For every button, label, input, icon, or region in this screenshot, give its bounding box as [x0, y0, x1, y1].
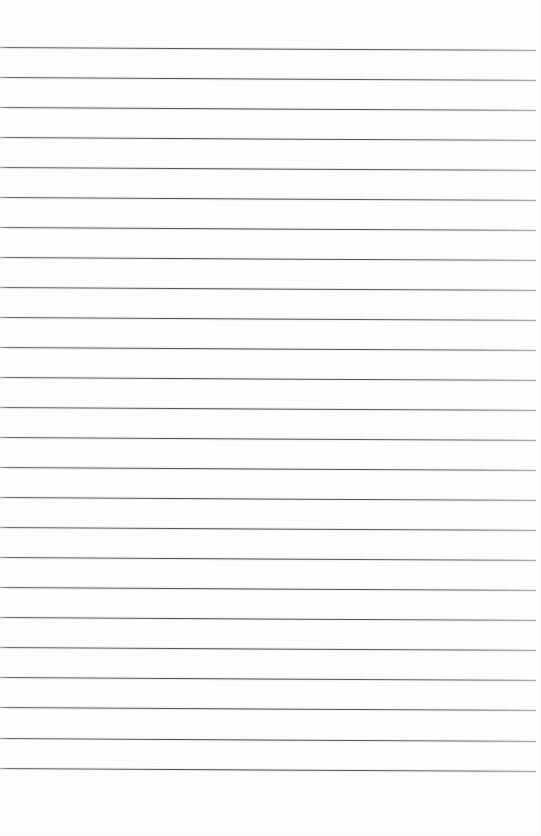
- paper-surface: [0, 0, 541, 836]
- bottom-margin-area: [0, 769, 541, 836]
- top-margin-area: [0, 0, 541, 47]
- scanned-page: Blank Ruled Notebook Page: [0, 0, 541, 836]
